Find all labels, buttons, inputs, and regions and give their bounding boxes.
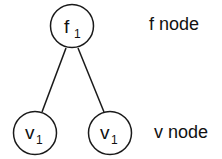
v-node-right-subscript: 1	[111, 133, 118, 147]
f-node-letter: f	[64, 16, 70, 37]
v-node-left-circle	[14, 112, 57, 155]
v-node-left: v 1	[14, 112, 57, 155]
factor-graph-diagram: f 1 v 1 v 1 f node v node	[0, 0, 222, 159]
edge-f1-v1-right	[78, 48, 104, 112]
f-node-subscript: 1	[74, 27, 81, 41]
f-node-circle	[51, 5, 94, 48]
legend-v-node: v node	[154, 122, 208, 142]
v-node-left-letter: v	[25, 122, 35, 143]
legend-f-node: f node	[149, 14, 199, 34]
v-node-right-circle	[89, 112, 132, 155]
edge-f1-v1-left	[42, 48, 66, 112]
v-node-left-subscript: 1	[36, 133, 43, 147]
v-node-right-letter: v	[100, 122, 110, 143]
f-node: f 1	[51, 5, 94, 48]
v-node-right: v 1	[89, 112, 132, 155]
